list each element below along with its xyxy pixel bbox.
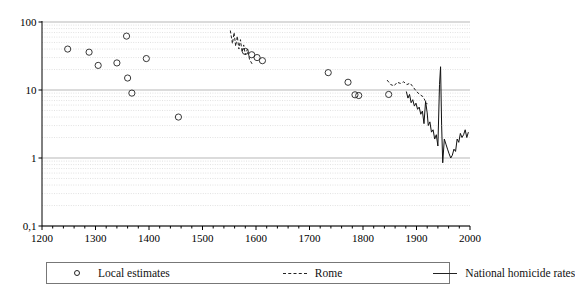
data-point-local-estimate [114,60,120,66]
data-point-local-estimate [143,55,149,61]
solid-line-icon [432,267,458,279]
x-axis-tick-label: 1500 [192,232,215,244]
data-line-rome [230,31,252,65]
data-point-local-estimate [386,91,392,97]
chart-legend: Local estimates Rome National homicide r… [46,262,450,284]
plot-area: 0,11101001200130014001500160017001800190… [0,0,494,250]
data-point-local-estimate [65,46,71,52]
data-line-national-homicide-rates [406,67,468,163]
data-point-local-estimate [86,49,92,55]
y-axis-tick-label: 1 [31,152,37,164]
legend-label-national-homicide-rates: National homicide rates [465,267,575,279]
y-axis-tick-label: 10 [26,84,38,96]
open-circle-icon [65,267,91,279]
x-axis-tick-label: 1400 [138,232,161,244]
data-point-local-estimate [259,58,265,64]
legend-item-rome: Rome [282,267,342,279]
y-axis-tick-label: 0,1 [23,220,37,232]
data-point-local-estimate [325,70,331,76]
data-point-local-estimate [175,114,181,120]
x-axis-tick-label: 1600 [245,232,268,244]
x-axis-tick-label: 1800 [352,232,375,244]
x-axis-tick-label: 1200 [31,232,54,244]
data-point-local-estimate [345,79,351,85]
x-axis-tick-label: 1900 [406,232,429,244]
data-point-local-estimate [356,92,362,98]
data-point-local-estimate [125,75,131,81]
data-point-local-estimate [123,33,129,39]
data-point-local-estimate [95,62,101,68]
x-axis-tick-label: 1300 [85,232,108,244]
legend-label-rome: Rome [315,267,342,279]
legend-label-local-estimates: Local estimates [98,267,170,279]
dashed-line-icon [282,267,308,279]
x-axis-tick-label: 2000 [459,232,482,244]
legend-item-local-estimates: Local estimates [65,267,170,279]
legend-item-national-homicide-rates: National homicide rates [432,267,575,279]
x-axis-tick-label: 1700 [299,232,322,244]
y-axis-tick-label: 100 [20,16,37,28]
chart-svg: 0,11101001200130014001500160017001800190… [0,0,494,250]
